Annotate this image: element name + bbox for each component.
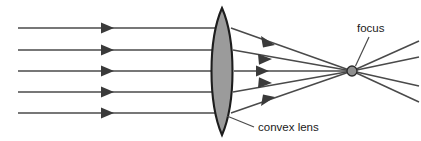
incoming-ray bbox=[18, 45, 216, 56]
arrow-head-icon bbox=[101, 108, 114, 119]
convex-lens-annotation: convex lens bbox=[227, 116, 319, 133]
incoming-rays-group bbox=[18, 23, 216, 119]
incoming-ray bbox=[18, 66, 216, 77]
refracted-rays-group bbox=[231, 28, 352, 113]
refracted-ray bbox=[233, 50, 352, 71]
focus-label: focus bbox=[357, 22, 385, 34]
convex-lens-shape bbox=[212, 8, 233, 135]
refracted-ray bbox=[233, 71, 352, 92]
convex-lens-label: convex lens bbox=[258, 121, 319, 133]
arrow-head-icon bbox=[256, 66, 269, 77]
incoming-ray bbox=[18, 87, 216, 98]
convex-lens-diagram: focus convex lens bbox=[0, 0, 421, 141]
diverging-ray bbox=[352, 71, 419, 102]
arrow-head-icon bbox=[101, 87, 114, 98]
focus-leader-line bbox=[356, 37, 370, 66]
incoming-ray bbox=[18, 23, 216, 34]
incoming-ray bbox=[18, 108, 216, 119]
arrow-head-icon bbox=[261, 95, 275, 106]
diverging-ray bbox=[352, 57, 419, 71]
arrow-head-icon bbox=[101, 23, 114, 34]
refracted-ray bbox=[231, 28, 352, 71]
diverging-ray bbox=[352, 71, 419, 86]
arrow-head-icon bbox=[101, 66, 114, 77]
arrow-head-icon bbox=[101, 45, 114, 56]
diverging-ray bbox=[352, 41, 419, 71]
convex-lens-leader-line bbox=[227, 116, 254, 127]
diverging-rays-group bbox=[352, 41, 419, 102]
arrow-head-icon bbox=[261, 36, 275, 47]
focus-point-marker bbox=[347, 66, 357, 76]
refracted-ray bbox=[231, 71, 352, 113]
focus-annotation: focus bbox=[356, 22, 385, 66]
ray-diagram-canvas: focus convex lens bbox=[0, 0, 421, 141]
